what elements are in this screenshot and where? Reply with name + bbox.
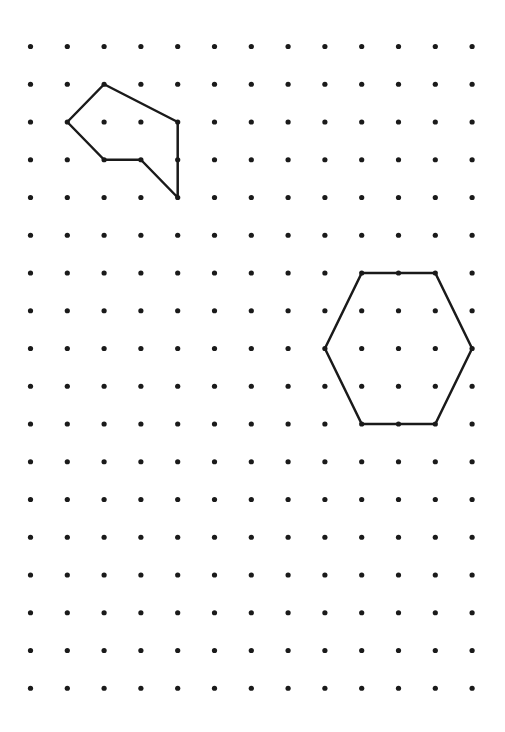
grid-dot (65, 572, 70, 577)
grid-dot (65, 157, 70, 162)
shapes-layer (67, 84, 472, 424)
grid-dot (322, 82, 327, 87)
grid-dot (138, 535, 143, 540)
grid-dot (470, 610, 475, 615)
grid-dot (212, 119, 217, 124)
grid-dot (138, 648, 143, 653)
grid-dot (396, 270, 401, 275)
grid-dot (433, 119, 438, 124)
grid-dot (249, 157, 254, 162)
grid-dot (175, 270, 180, 275)
grid-dot (286, 535, 291, 540)
grid-dot (65, 346, 70, 351)
grid-dot (175, 119, 180, 124)
grid-dot (322, 648, 327, 653)
grid-dot (138, 346, 143, 351)
grid-dot (102, 346, 107, 351)
grid-dot (470, 421, 475, 426)
grid-dot (322, 384, 327, 389)
grid-dot (249, 459, 254, 464)
grid-dot (249, 686, 254, 691)
grid-dot (433, 233, 438, 238)
grid-dot (65, 308, 70, 313)
grid-dot (102, 421, 107, 426)
grid-dot (175, 572, 180, 577)
grid-dot (286, 459, 291, 464)
grid-dot (433, 572, 438, 577)
grid-dot (433, 270, 438, 275)
grid-dot (322, 346, 327, 351)
grid-dot (286, 686, 291, 691)
grid-dot (396, 384, 401, 389)
grid-dot (102, 535, 107, 540)
grid-dot (470, 346, 475, 351)
grid-dot (359, 233, 364, 238)
grid-dot (433, 497, 438, 502)
grid-dot (359, 44, 364, 49)
grid-dot (102, 610, 107, 615)
grid-dot (396, 119, 401, 124)
grid-dot (433, 535, 438, 540)
grid-dot (175, 195, 180, 200)
grid-dot (286, 308, 291, 313)
grid-dot (470, 572, 475, 577)
grid-dot (65, 82, 70, 87)
grid-dot (433, 421, 438, 426)
grid-dot (65, 384, 70, 389)
grid-dot (175, 535, 180, 540)
grid-dot (65, 535, 70, 540)
grid-dot (249, 421, 254, 426)
grid-dot (433, 648, 438, 653)
grid-dot (28, 157, 33, 162)
grid-dot (102, 686, 107, 691)
grid-dot (102, 270, 107, 275)
grid-dot (65, 233, 70, 238)
grid-dot (138, 686, 143, 691)
grid-dot (138, 195, 143, 200)
grid-dot (359, 270, 364, 275)
grid-dot (212, 421, 217, 426)
grid-dot (249, 535, 254, 540)
grid-dot (470, 497, 475, 502)
grid-dot (175, 44, 180, 49)
grid-dot (138, 572, 143, 577)
grid-dot (102, 119, 107, 124)
grid-dot (433, 459, 438, 464)
grid-dot (286, 572, 291, 577)
grid-dot (470, 384, 475, 389)
grid-dot (470, 233, 475, 238)
dots-layer (28, 44, 475, 691)
grid-dot (286, 648, 291, 653)
grid-dot (249, 44, 254, 49)
grid-dot (470, 82, 475, 87)
grid-dot (212, 44, 217, 49)
grid-dot (470, 195, 475, 200)
grid-dot (138, 610, 143, 615)
grid-dot (175, 421, 180, 426)
grid-dot (138, 308, 143, 313)
grid-dot (28, 119, 33, 124)
grid-dot (212, 346, 217, 351)
grid-dot (286, 233, 291, 238)
grid-dot (249, 346, 254, 351)
grid-dot (322, 308, 327, 313)
grid-dot (396, 497, 401, 502)
grid-dot (175, 459, 180, 464)
grid-dot (359, 610, 364, 615)
grid-dot (396, 308, 401, 313)
grid-dot (65, 119, 70, 124)
grid-dot (65, 648, 70, 653)
grid-dot (396, 648, 401, 653)
grid-dot (138, 384, 143, 389)
grid-dot (102, 459, 107, 464)
grid-dot (212, 157, 217, 162)
grid-dot (65, 686, 70, 691)
grid-dot (322, 195, 327, 200)
grid-dot (359, 346, 364, 351)
grid-dot (396, 195, 401, 200)
grid-dot (286, 157, 291, 162)
grid-dot (322, 44, 327, 49)
grid-dot (212, 270, 217, 275)
grid-dot (28, 535, 33, 540)
grid-dot (175, 384, 180, 389)
